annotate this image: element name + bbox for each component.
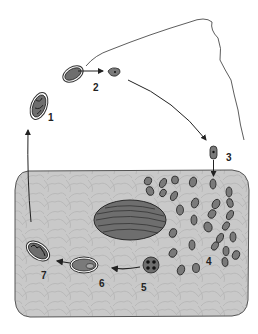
stage-label-2: 2 [93,82,99,93]
stage-label-3: 3 [226,152,232,163]
stage-label-4: 4 [206,256,212,267]
stage-2-sporozoite [108,68,120,76]
stage-3-sporozoite [210,146,217,159]
arrow-2-to-3 [128,80,206,140]
stage-6-encysting [70,257,98,273]
stage-5-four-nucleated [143,257,159,273]
stage-label-1: 1 [48,112,54,123]
stage-label-5: 5 [141,282,147,293]
flagellum-line [86,19,244,140]
stage-label-7: 7 [41,270,47,281]
host-nucleus [94,200,166,240]
stage-label-6: 6 [99,278,105,289]
life-cycle-diagram: 1 2 3 [0,0,258,334]
stage-2-sporocyst [60,62,86,85]
